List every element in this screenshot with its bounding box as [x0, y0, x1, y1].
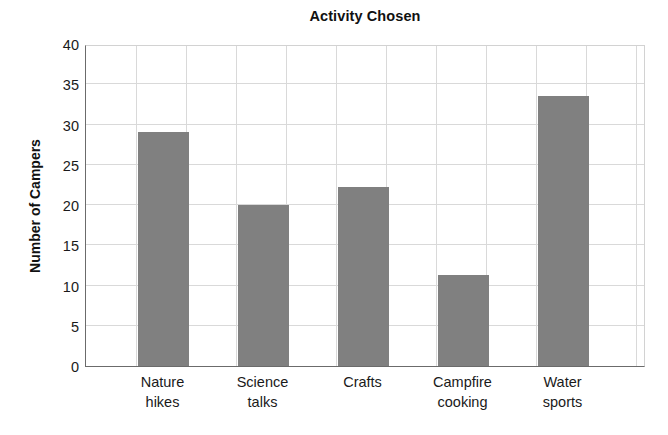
- x-axis-category-labels: NaturehikesSciencetalksCraftsCampfirecoo…: [85, 372, 645, 430]
- gridline-vertical: [136, 46, 137, 366]
- y-axis-tick-label: 10: [45, 279, 79, 295]
- bar: [238, 205, 289, 366]
- x-axis-category-label-line: talks: [203, 392, 323, 412]
- gridline-vertical: [636, 46, 637, 366]
- gridline-vertical: [336, 46, 337, 366]
- y-axis-tick-label: 0: [45, 359, 79, 375]
- gridline-vertical: [236, 46, 237, 366]
- bar: [138, 132, 189, 366]
- gridline-horizontal: [86, 83, 644, 84]
- gridline-vertical: [436, 46, 437, 366]
- x-axis-category-label-line: sports: [503, 392, 623, 412]
- y-axis-tick-label: 25: [45, 158, 79, 174]
- x-axis-category-label: Watersports: [503, 372, 623, 412]
- bar: [538, 96, 589, 366]
- y-axis-tick-label: 20: [45, 198, 79, 214]
- y-axis-tick-label: 40: [45, 37, 79, 53]
- chart-title: Activity Chosen: [85, 8, 645, 24]
- gridline-vertical: [536, 46, 537, 366]
- bar: [438, 275, 489, 366]
- bar-chart: Activity Chosen Number of Campers 051015…: [0, 0, 668, 435]
- y-axis-tick-label: 5: [45, 319, 79, 335]
- x-axis-category-label-line: Water: [503, 372, 623, 392]
- y-axis-tick-label: 15: [45, 238, 79, 254]
- plot-area: [85, 45, 645, 367]
- y-axis-tick-labels: 0510152025303540: [39, 45, 79, 367]
- y-axis-tick-label: 30: [45, 118, 79, 134]
- y-axis-tick-label: 35: [45, 77, 79, 93]
- bar: [338, 187, 389, 367]
